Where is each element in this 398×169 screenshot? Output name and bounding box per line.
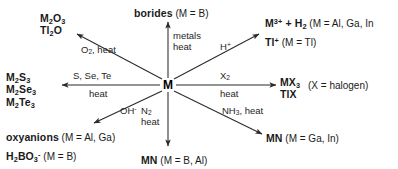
condition-nitride-n2: N2 heat [141, 105, 160, 127]
product-acid-hydrogen: M3+ + H2 (M = Al, Ga, In Tl+ (M = Tl) [265, 13, 374, 51]
condition-hydroxide: OH- [120, 105, 136, 116]
product-borides-qualifier: (M = B) [173, 8, 209, 19]
condition-chalc-reagent-text: S, Se, Te [73, 70, 111, 81]
condition-chalcogenides-reagent: S, Se, Te [73, 70, 111, 81]
condition-borides-heat: heat [173, 41, 201, 52]
condition-halide-reagent-text: X2 [220, 70, 230, 81]
product-oxyanions-name: oxyanions [6, 131, 59, 143]
product-halide-MX3: MX3 [280, 76, 300, 88]
condition-acid-text: H+ [220, 41, 231, 52]
product-oxyanions-line1: oxyanions (M = Al, Ga) [6, 127, 115, 146]
condition-borides-reagent: metals [173, 30, 201, 41]
condition-oxides: O2, heat [81, 44, 116, 55]
product-halides: MX3 TlX [280, 76, 300, 101]
product-chalcogenides: M2S3 M2Se3 M2Te3 [6, 71, 36, 108]
product-borides: borides (M = B) [134, 3, 208, 22]
product-halide-qualifier: (X = halogen) [308, 80, 368, 92]
condition-halides-reagent: X2 [220, 70, 230, 81]
condition-hydroxide-text: OH- [120, 105, 136, 116]
product-nitride-nh3-name: MN [266, 132, 283, 144]
product-nitride-n2-qual: (M = B, Al) [158, 155, 208, 166]
condition-nitride-nh3: NH3, heat [222, 105, 263, 116]
condition-oxides-text: O2, heat [81, 44, 116, 55]
condition-halides-heat: heat [220, 88, 239, 99]
condition-n2-heat: heat [141, 116, 160, 127]
reaction-scheme-diagram: M borides (M = B) metals heat M2O3 Tl2O … [0, 0, 398, 169]
condition-chalcogenides-heat: heat [89, 88, 108, 99]
product-nitride-nh3: MN (M = Ga, In) [266, 128, 339, 147]
product-chalc-M2Te3: M2Te3 [6, 96, 36, 108]
condition-acid: H+ [220, 41, 231, 52]
product-nitride-n2: MN (M = B, Al) [141, 150, 207, 169]
product-acid-line1: M3+ + H2 (M = Al, Ga, In [265, 13, 374, 32]
product-chalc-M2Se3: M2Se3 [6, 83, 36, 95]
condition-halide-heat-text: heat [220, 88, 239, 99]
product-chalc-M2S3: M2S3 [6, 71, 36, 83]
product-oxides: M2O3 Tl2O [40, 12, 66, 37]
product-oxyanions-line2: H2BO3- (M = B) [6, 146, 115, 165]
product-oxide-Tl2O: Tl2O [40, 24, 66, 36]
condition-n2-reagent: N2 [141, 105, 160, 116]
product-nitride-nh3-qual: (M = Ga, In) [283, 133, 339, 144]
product-nitride-n2-name: MN [141, 154, 158, 166]
product-acid-line2: Tl+ (M = Tl) [265, 32, 374, 51]
product-halide-qualifier-text: (X = halogen) [308, 80, 368, 91]
product-oxyanions: oxyanions (M = Al, Ga) H2BO3- (M = B) [6, 127, 115, 165]
product-halide-TlX: TlX [280, 88, 300, 100]
center-element-M: M [163, 78, 173, 92]
condition-chalc-heat-text: heat [89, 88, 108, 99]
product-oxide-M2O3: M2O3 [40, 12, 66, 24]
condition-borides: metals heat [173, 30, 201, 52]
product-borides-name: borides [134, 7, 173, 19]
product-oxyanions-qual: (M = Al, Ga) [59, 132, 115, 143]
condition-nh3-text: NH3, heat [222, 105, 263, 116]
